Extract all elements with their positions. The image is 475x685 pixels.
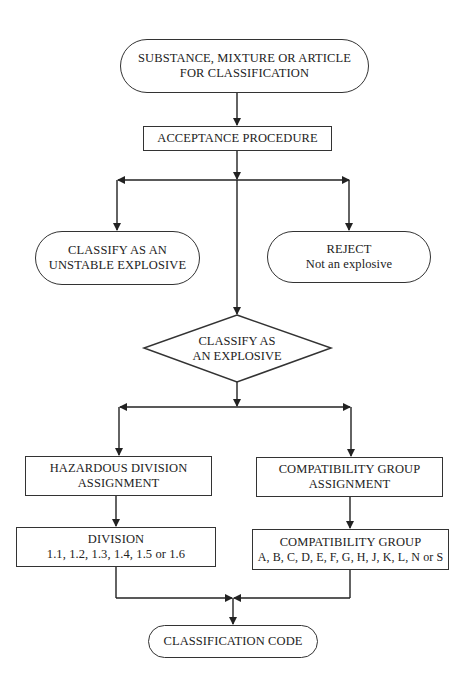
division-box: DIVISION 1.1, 1.2, 1.3, 1.4, 1.5 or 1.6	[16, 527, 216, 567]
compat-group-line2: A, B, C, D, E, F, G, H, J, K, L, N or S	[258, 550, 444, 565]
acceptance-label: ACCEPTANCE PROCEDURE	[157, 131, 317, 146]
division-line1: DIVISION	[88, 532, 144, 547]
reject-label-line1: REJECT	[326, 242, 371, 257]
classify-label-line1: CLASSIFY AS	[164, 334, 310, 349]
compatibility-group-assignment-box: COMPATIBILITY GROUP ASSIGNMENT	[256, 457, 443, 497]
start-terminator: SUBSTANCE, MIXTURE OR ARTICLE FOR CLASSI…	[120, 39, 369, 93]
compat-assign-line2: ASSIGNMENT	[309, 477, 391, 492]
code-label: CLASSIFICATION CODE	[163, 634, 302, 649]
reject-label-line2: Not an explosive	[306, 257, 392, 272]
division-line2: 1.1, 1.2, 1.3, 1.4, 1.5 or 1.6	[47, 547, 185, 562]
hazard-assign-line2: ASSIGNMENT	[78, 476, 160, 491]
hazard-assign-line1: HAZARDOUS DIVISION	[50, 461, 188, 476]
start-label-line2: FOR CLASSIFICATION	[180, 66, 309, 81]
classify-label-line2: AN EXPLOSIVE	[164, 349, 310, 364]
classification-code-terminator: CLASSIFICATION CODE	[148, 625, 318, 658]
compat-assign-line1: COMPATIBILITY GROUP	[279, 462, 421, 477]
unstable-explosive-terminator: CLASSIFY AS AN UNSTABLE EXPLOSIVE	[35, 231, 200, 285]
compat-group-line1: COMPATIBILITY GROUP	[280, 535, 422, 550]
hazard-division-assignment-box: HAZARDOUS DIVISION ASSIGNMENT	[25, 456, 212, 496]
classify-explosive-label: CLASSIFY AS AN EXPLOSIVE	[164, 334, 310, 364]
compatibility-group-box: COMPATIBILITY GROUP A, B, C, D, E, F, G,…	[252, 529, 449, 570]
reject-terminator: REJECT Not an explosive	[267, 231, 431, 283]
start-label-line1: SUBSTANCE, MIXTURE OR ARTICLE	[138, 51, 351, 66]
unstable-label-line2: UNSTABLE EXPLOSIVE	[49, 258, 186, 273]
unstable-label-line1: CLASSIFY AS AN	[68, 243, 167, 258]
acceptance-procedure-box: ACCEPTANCE PROCEDURE	[143, 126, 332, 151]
